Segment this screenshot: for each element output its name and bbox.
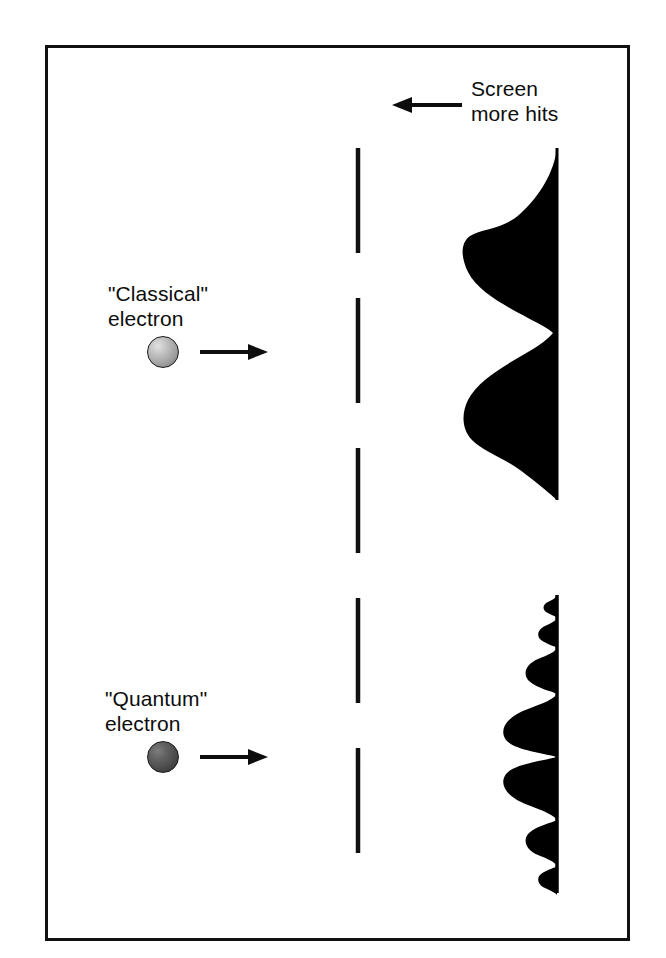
quantum-label-line1: "Quantum"	[105, 687, 207, 710]
screen-label-line2: more hits	[471, 102, 558, 125]
classical-electron-sphere	[147, 336, 179, 368]
diagram-graphics	[0, 0, 666, 958]
classical-label-line1: "Classical"	[108, 282, 208, 305]
classical-electron-label: "Classical"electron	[108, 281, 208, 331]
quantum-electron-label: "Quantum"electron	[105, 686, 207, 736]
classical-distribution-curve	[463, 148, 557, 500]
quantum-electron-sphere	[147, 741, 179, 773]
screen-label: Screenmore hits	[471, 76, 558, 126]
screen-label-line1: Screen	[471, 77, 538, 100]
quantum-label-line2: electron	[105, 712, 181, 735]
classical-label-line2: electron	[108, 307, 184, 330]
quantum-travel-arrow-icon	[200, 749, 268, 765]
double-slit-diagram: Screenmore hits "Classical"electron "Qua…	[0, 0, 666, 958]
left-arrow-icon	[392, 97, 462, 113]
quantum-distribution-curve	[503, 595, 557, 895]
classical-travel-arrow-icon	[200, 344, 268, 360]
